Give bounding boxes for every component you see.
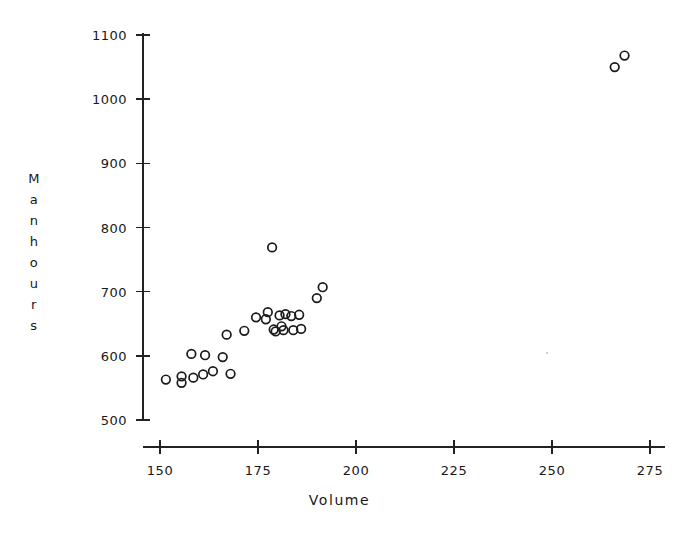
y-axis-label-letter: s xyxy=(24,315,44,336)
paper-speck xyxy=(546,352,548,354)
y-axis-label-letter: a xyxy=(24,189,44,210)
y-axis-label-letter: h xyxy=(24,231,44,252)
data-point-marker xyxy=(189,373,198,382)
data-point-marker xyxy=(177,378,186,387)
scatter-plot-figure: 50060070080090010001100 1501752002252502… xyxy=(0,0,679,543)
y-tick-label: 500 xyxy=(55,413,127,428)
data-point-marker xyxy=(240,327,249,336)
y-axis-label: Manhours xyxy=(24,168,44,336)
x-tick-label: 250 xyxy=(539,463,565,478)
data-point-marker xyxy=(226,370,235,379)
y-axis-label-letter: u xyxy=(24,273,44,294)
data-point-marker xyxy=(209,367,218,376)
x-tick-label: 225 xyxy=(441,463,467,478)
data-point-marker xyxy=(610,63,619,72)
x-tick-label: 200 xyxy=(343,463,369,478)
data-point-marker xyxy=(252,313,261,322)
axis-lines xyxy=(143,33,665,447)
y-axis-label-letter: M xyxy=(24,168,44,189)
y-axis-label-letter: n xyxy=(24,210,44,231)
data-point-marker xyxy=(162,375,171,384)
y-axis-label-letter: o xyxy=(24,252,44,273)
data-point-marker xyxy=(222,330,231,339)
x-tick-label: 275 xyxy=(637,463,663,478)
x-tick-label: 150 xyxy=(147,463,173,478)
data-point-marker xyxy=(218,353,227,362)
plot-canvas xyxy=(0,0,679,543)
y-tick-label: 800 xyxy=(55,220,127,235)
data-point-marker xyxy=(275,311,284,320)
y-axis-label-letter: r xyxy=(24,294,44,315)
y-tick-label: 1000 xyxy=(55,92,127,107)
data-point-marker xyxy=(187,350,196,359)
x-axis-label: Volume xyxy=(0,492,679,508)
data-point-marker xyxy=(201,351,210,360)
data-point-marker xyxy=(268,243,277,252)
data-point-markers xyxy=(162,51,629,387)
data-point-marker xyxy=(313,294,322,303)
data-point-marker xyxy=(620,51,629,60)
y-tick-label: 600 xyxy=(55,348,127,363)
y-tick-label: 1100 xyxy=(55,28,127,43)
x-tick-label: 175 xyxy=(245,463,271,478)
y-tick-label: 700 xyxy=(55,284,127,299)
data-point-marker xyxy=(318,283,327,292)
data-point-marker xyxy=(199,370,208,379)
y-tick-label: 900 xyxy=(55,156,127,171)
